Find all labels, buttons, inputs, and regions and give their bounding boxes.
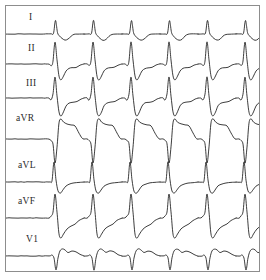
lead-label-iii: III xyxy=(26,79,36,89)
ecg-strip-container: IIIIIIaVRaVLaVFV1 xyxy=(0,0,266,280)
ecg-chart-frame: IIIIIIaVRaVLaVFV1 xyxy=(5,5,260,272)
ecg-trace-avr xyxy=(6,119,259,163)
lead-label-avl: aVL xyxy=(18,161,36,171)
lead-label-avr: aVR xyxy=(16,114,34,124)
lead-label-avf: aVF xyxy=(18,197,35,207)
ecg-waveform-canvas xyxy=(6,6,259,271)
ecg-trace-iii xyxy=(6,77,259,116)
ecg-trace-avl xyxy=(6,162,259,193)
lead-label-i: I xyxy=(29,13,32,23)
ecg-trace-avf xyxy=(6,194,259,238)
ecg-trace-i xyxy=(6,20,259,40)
ecg-trace-v1 xyxy=(6,249,259,270)
ecg-trace-ii xyxy=(6,42,259,80)
lead-label-v1: V1 xyxy=(26,235,38,245)
lead-label-ii: II xyxy=(28,44,35,54)
